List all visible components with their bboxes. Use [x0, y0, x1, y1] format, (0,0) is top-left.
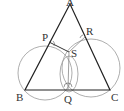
angle-mark-r — [80, 35, 83, 38]
segment-sq — [68, 52, 69, 90]
label-q: Q — [64, 93, 72, 105]
circle-bpq — [18, 46, 72, 100]
label-c: C — [111, 91, 118, 103]
label-b: B — [16, 91, 23, 103]
label-r: R — [86, 25, 94, 37]
label-p: P — [42, 31, 48, 43]
label-s: S — [71, 47, 77, 59]
angle-mark-p — [53, 41, 54, 46]
geometry-diagram: A B C P R S Q — [0, 0, 124, 111]
label-a: A — [66, 0, 74, 8]
